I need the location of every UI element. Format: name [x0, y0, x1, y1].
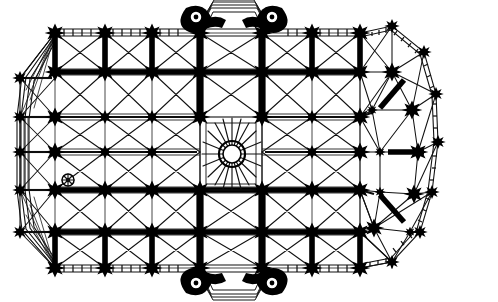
- cathedral-plan-drawing: [0, 0, 498, 302]
- stair-turret-west-side: [62, 174, 74, 186]
- floor-plan-canvas: [0, 0, 498, 302]
